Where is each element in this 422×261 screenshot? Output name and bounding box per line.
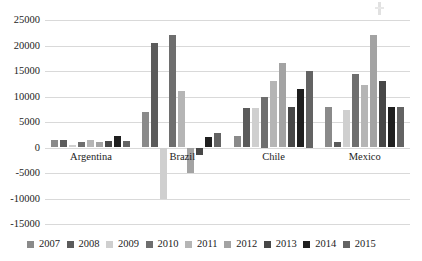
legend-item-2009: 2009 xyxy=(106,239,139,250)
bar-chile-2009 xyxy=(252,108,259,148)
legend-swatch-icon xyxy=(264,241,271,248)
bar-argentina-2008 xyxy=(60,140,67,148)
y-tick-label: 10000 xyxy=(14,91,40,102)
category-label-chile: Chile xyxy=(228,151,320,163)
legend-item-2011: 2011 xyxy=(185,239,218,250)
smudge-artifact xyxy=(375,2,384,15)
legend-swatch-icon xyxy=(185,241,192,248)
bar-argentina-2015 xyxy=(123,141,130,148)
bar-mexico-2014 xyxy=(388,107,395,148)
bar-chile-2013 xyxy=(288,107,295,148)
legend-swatch-icon xyxy=(106,241,113,248)
legend-item-2007: 2007 xyxy=(27,239,60,250)
legend-label: 2015 xyxy=(355,239,376,250)
bar-mexico-2009 xyxy=(343,110,350,148)
bar-chile-2011 xyxy=(270,81,277,147)
bar-argentina-2011 xyxy=(87,140,94,148)
legend-label: 2008 xyxy=(79,239,100,250)
bar-mexico-2007 xyxy=(325,107,332,148)
y-tick-label: 5000 xyxy=(19,117,40,128)
y-tick-label: 25000 xyxy=(14,15,40,26)
bar-brazil-2007 xyxy=(142,112,149,148)
bar-mexico-2011 xyxy=(361,85,368,148)
y-tick-label: 15000 xyxy=(14,66,40,77)
legend-swatch-icon xyxy=(303,241,310,248)
bar-argentina-2014 xyxy=(114,136,121,147)
bar-chart: 2500020000150001000050000-5000-10000-150… xyxy=(0,0,422,261)
bar-chile-2010 xyxy=(261,97,268,148)
bar-brazil-2008 xyxy=(151,43,158,148)
bar-mexico-2015 xyxy=(397,107,404,147)
bar-mexico-2012 xyxy=(370,35,377,147)
category-label-argentina: Argentina xyxy=(45,151,137,163)
legend-label: 2012 xyxy=(236,239,257,250)
legend-label: 2007 xyxy=(39,239,60,250)
y-tick-label: -15000 xyxy=(10,219,40,230)
legend-swatch-icon xyxy=(343,241,350,248)
legend-item-2015: 2015 xyxy=(343,239,376,250)
bar-mexico-2013 xyxy=(379,81,386,147)
category-label-mexico: Mexico xyxy=(319,151,411,163)
legend-swatch-icon xyxy=(146,241,153,248)
legend-item-2012: 2012 xyxy=(224,239,257,250)
bar-brazil-2011 xyxy=(178,91,185,147)
legend: 200720082009201020112012201320142015 xyxy=(27,236,417,252)
y-tick-label: 20000 xyxy=(14,40,40,51)
y-tick-label: 0 xyxy=(35,142,40,153)
legend-swatch-icon xyxy=(27,241,34,248)
bar-mexico-2008 xyxy=(334,142,341,147)
legend-label: 2014 xyxy=(315,239,336,250)
legend-item-2013: 2013 xyxy=(264,239,297,250)
bar-argentina-2012 xyxy=(96,142,103,147)
legend-item-2014: 2014 xyxy=(303,239,336,250)
y-tick-label: -10000 xyxy=(10,193,40,204)
bar-chile-2012 xyxy=(279,63,286,147)
legend-swatch-icon xyxy=(67,241,74,248)
legend-label: 2010 xyxy=(158,239,179,250)
bar-chile-2007 xyxy=(234,136,241,147)
bar-argentina-2013 xyxy=(105,141,112,147)
bar-brazil-2015 xyxy=(214,133,221,147)
legend-swatch-icon xyxy=(224,241,231,248)
bar-chile-2015 xyxy=(306,71,313,148)
bar-brazil-2014 xyxy=(205,137,212,147)
bar-chile-2008 xyxy=(243,108,250,148)
bar-chile-2014 xyxy=(297,89,304,148)
category-label-brazil: Brazil xyxy=(136,151,228,163)
legend-label: 2013 xyxy=(276,239,297,250)
bar-argentina-2009 xyxy=(69,145,76,148)
legend-label: 2011 xyxy=(197,239,218,250)
legend-label: 2009 xyxy=(118,239,139,250)
bar-mexico-2010 xyxy=(352,74,359,148)
legend-item-2008: 2008 xyxy=(67,239,100,250)
gridline xyxy=(45,224,410,225)
legend-item-2010: 2010 xyxy=(146,239,179,250)
y-tick-label: -5000 xyxy=(16,168,41,179)
bar-argentina-2007 xyxy=(51,140,58,148)
plot-area xyxy=(45,20,410,224)
bar-argentina-2010 xyxy=(78,142,85,148)
bar-brazil-2010 xyxy=(169,35,176,147)
